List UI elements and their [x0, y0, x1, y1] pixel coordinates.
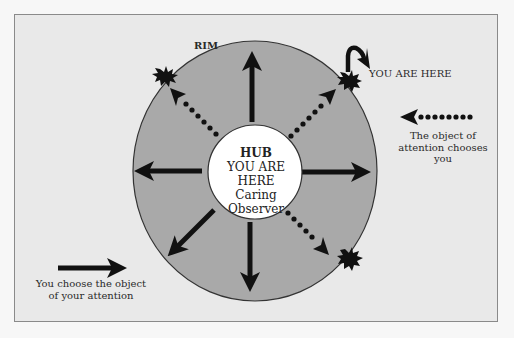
right-caption-line2: attention chooses you [388, 142, 498, 165]
left-caption-line2: of your attention [28, 290, 154, 302]
hub-title: HUB [208, 146, 304, 160]
rim-label: RIM [191, 40, 221, 52]
dotted-arrow-legend-icon [400, 109, 473, 125]
left-caption-line1: You choose the object [28, 278, 154, 290]
right-caption: The object of attention chooses you [388, 130, 498, 165]
right-caption-line1: The object of [388, 130, 498, 142]
hub-line-caring: Caring [208, 188, 304, 202]
hub-text: HUB YOU ARE HERE Caring Observer [208, 146, 304, 216]
you-are-here-label: YOU ARE HERE [369, 68, 459, 80]
hub-line-you-are-here: YOU ARE HERE [208, 160, 304, 188]
left-caption: You choose the object of your attention [28, 278, 154, 301]
hub-line-observer: Observer [208, 202, 304, 216]
